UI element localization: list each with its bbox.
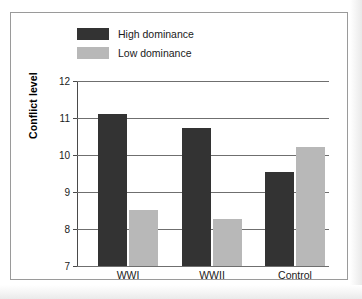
bar-high-dominance <box>98 114 127 266</box>
y-tick-mark <box>73 81 77 82</box>
y-tick-label: 11 <box>60 113 70 124</box>
chart-legend: High dominance Low dominance <box>77 26 257 64</box>
bar-high-dominance <box>182 128 211 266</box>
x-tick-label: WWII <box>167 269 257 281</box>
y-tick-label: 10 <box>59 150 70 161</box>
y-tick-label: 9 <box>64 187 70 198</box>
y-tick-label: 12 <box>59 76 70 87</box>
legend-label-low-dominance: Low dominance <box>118 47 192 59</box>
y-tick-label: 7 <box>64 261 70 272</box>
legend-item-low-dominance: Low dominance <box>77 45 257 61</box>
chart-figure-frame: High dominance Low dominance Conflict le… <box>10 12 348 280</box>
y-axis-title: Conflict level <box>27 72 39 139</box>
bar-low-dominance <box>296 147 325 266</box>
page-edge-shading-right <box>350 0 362 299</box>
bar-low-dominance <box>213 219 242 266</box>
y-tick-mark <box>73 118 77 119</box>
y-tick-mark <box>73 155 77 156</box>
legend-swatch-low-dominance <box>77 47 109 59</box>
bar-low-dominance <box>129 210 158 266</box>
y-tick-mark <box>73 229 77 230</box>
y-tick-label: 8 <box>64 224 70 235</box>
y-tick-mark <box>73 266 77 267</box>
y-tick-mark <box>73 192 77 193</box>
x-tick-label: WWI <box>83 269 173 281</box>
x-tick-label: Control <box>250 269 340 281</box>
gridline <box>77 266 329 267</box>
page-edge-shading-bottom <box>0 285 362 299</box>
plot-area: 121110987 WWIWWIIControl <box>77 81 329 266</box>
bar-high-dominance <box>265 172 294 266</box>
legend-label-high-dominance: High dominance <box>118 28 194 40</box>
gridline <box>77 81 329 82</box>
legend-swatch-high-dominance <box>77 28 109 40</box>
y-axis-line <box>77 81 78 266</box>
legend-item-high-dominance: High dominance <box>77 26 257 42</box>
